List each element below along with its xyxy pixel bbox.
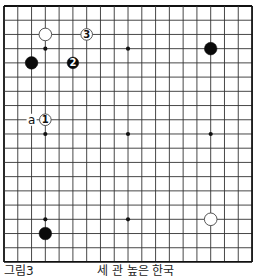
black-stone [39,227,52,240]
white-stone [39,28,52,41]
point-label-a: a [28,113,35,127]
star-point [43,132,47,136]
black-stone [25,57,38,70]
caption-figure-number: 그림3 [4,264,34,278]
white-stone-3: 3 [81,29,93,41]
go-board: 321 a [0,0,255,264]
star-point [43,217,47,221]
star-point [126,132,130,136]
black-stone-2: 2 [67,57,79,69]
white-stone-1: 1 [40,114,52,126]
point-markers: a [27,113,37,127]
move-number: 1 [42,114,49,125]
figure-caption: 그림3 세 관 높은 한국 [2,264,257,278]
star-point [126,217,130,221]
white-stone [204,213,217,226]
move-number: 2 [69,57,76,68]
star-point [126,47,130,51]
move-number: 3 [83,29,90,40]
black-stone [204,42,217,55]
star-point [209,132,213,136]
star-point [43,47,47,51]
caption-text: 세 관 높은 한국 [97,264,174,278]
